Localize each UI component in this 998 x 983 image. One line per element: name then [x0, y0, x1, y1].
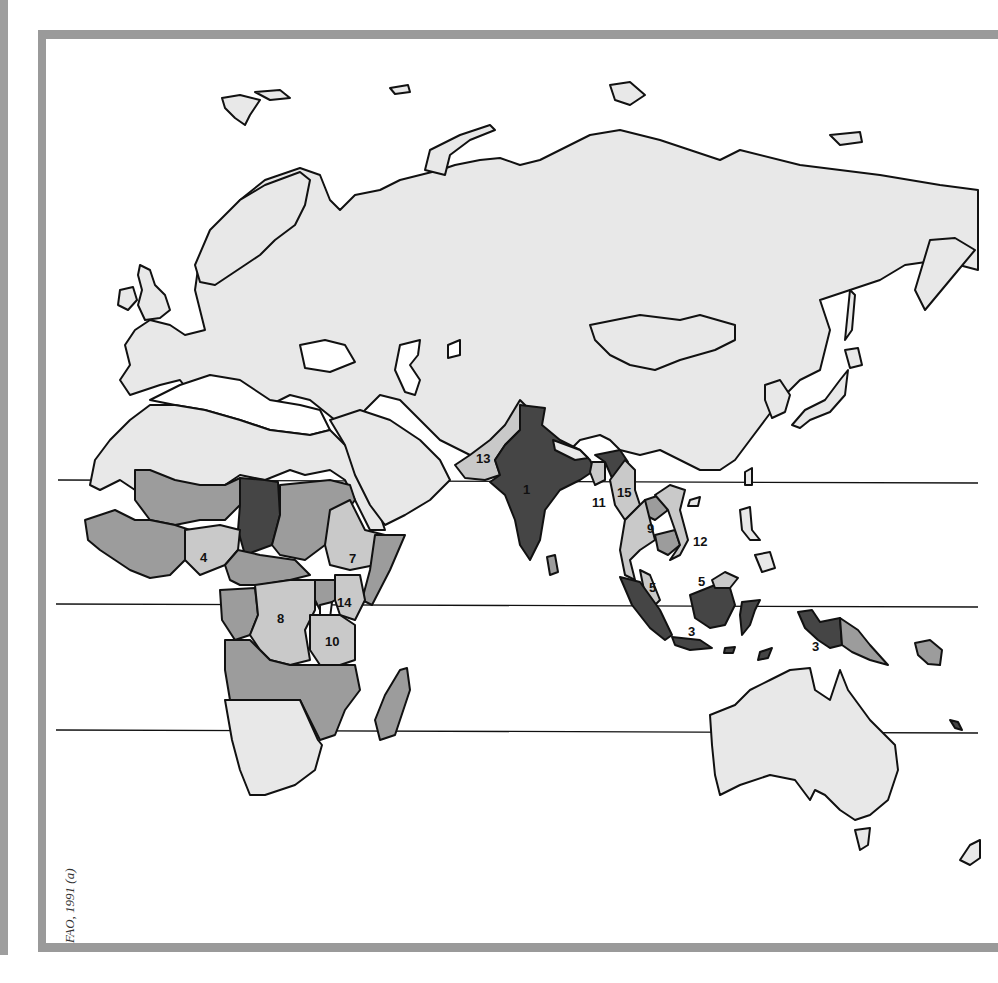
label-indonesia-irian: 3: [812, 639, 819, 654]
label-india: 1: [523, 482, 530, 497]
new-siberian-islands: [830, 132, 862, 145]
new-caledonia: [950, 720, 962, 730]
south-africa-region: [225, 700, 322, 795]
svalbard: [222, 95, 260, 125]
label-kenya: 14: [337, 595, 352, 610]
borneo-kalimantan: [690, 585, 735, 628]
label-tanzania: 10: [325, 634, 339, 649]
severnaya-zemlya: [610, 82, 645, 105]
label-zaire: 8: [277, 611, 284, 626]
label-pakistan: 13: [476, 451, 490, 466]
taiwan: [745, 468, 752, 485]
hokkaido: [845, 348, 862, 368]
solomon-islands: [915, 640, 942, 665]
madagascar: [375, 668, 410, 740]
label-ethiopia: 7: [349, 551, 356, 566]
label-malaysia-peninsular: 5: [649, 580, 656, 595]
papua-new-guinea: [840, 618, 888, 665]
irian-jaya: [798, 610, 842, 648]
sakhalin: [845, 290, 855, 340]
sri-lanka: [547, 555, 558, 575]
borneo-malaysia: [712, 572, 738, 588]
new-zealand-edge: [960, 840, 980, 865]
franz-josef-land: [390, 85, 410, 94]
philippines: [740, 507, 760, 540]
ireland: [118, 287, 137, 310]
timor: [758, 648, 772, 660]
lesser-sundas: [724, 647, 735, 653]
tasmania: [855, 828, 870, 850]
source-credit: FAO, 1991 (a): [62, 868, 78, 943]
label-nigeria: 4: [200, 550, 208, 565]
svalbard-east: [255, 90, 290, 100]
philippines-mindanao: [755, 552, 775, 572]
equator-line: [56, 604, 978, 607]
hainan: [688, 497, 700, 506]
great-britain: [138, 265, 170, 320]
australia: [710, 668, 898, 820]
label-viet-nam: 12: [693, 534, 707, 549]
label-indonesia-sumatra: 3: [688, 624, 695, 639]
label-myanmar: 15: [617, 485, 631, 500]
label-malaysia-borneo: 5: [698, 574, 705, 589]
label-thailand: 9: [647, 521, 654, 536]
sulawesi: [740, 600, 760, 635]
label-bangladesh: 11: [592, 495, 606, 510]
